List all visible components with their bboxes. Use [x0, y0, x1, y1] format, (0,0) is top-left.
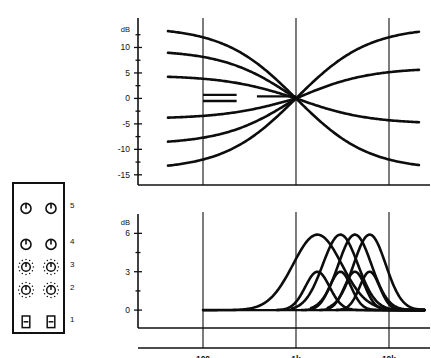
y-tick-label: -5 [122, 119, 130, 129]
rotary-knob[interactable] [17, 235, 35, 253]
panel-row-4 [14, 233, 63, 255]
panel-row-number-3: 3 [70, 261, 84, 269]
y-tick-label: 0 [125, 93, 130, 103]
y-tick-label: 10 [121, 42, 131, 52]
panel-row-3 [14, 256, 63, 278]
x-tick-label: 10k [382, 354, 396, 358]
push-button-switch[interactable] [42, 313, 60, 331]
panel-row-number-4: 4 [70, 238, 84, 246]
rotary-knob-detented[interactable] [17, 258, 35, 276]
y-axis-unit-label: dB [121, 25, 130, 34]
peaking-response-chart: 630dB1001k10k [100, 202, 431, 354]
rotary-knob[interactable] [17, 199, 35, 217]
shelf-curve-high-shelf-cut-mid [296, 98, 419, 122]
equalizer-control-panel [12, 182, 65, 334]
peaking-response-svg: 630dB1001k10k [100, 202, 431, 354]
shelf-curve-high-shelf-cut-max [296, 98, 419, 165]
rotary-knob-detented[interactable] [42, 281, 60, 299]
y-tick-label: 3 [125, 267, 130, 277]
shelf-curve-high-shelf-boost-max [296, 32, 419, 99]
y-tick-label: -10 [118, 144, 131, 154]
panel-row-5 [14, 197, 63, 219]
panel-row-number-5: 5 [70, 202, 84, 210]
rotary-knob-detented[interactable] [42, 258, 60, 276]
panel-row-2 [14, 279, 63, 301]
y-tick-label: -15 [118, 170, 131, 180]
shelf-curve-high-shelf-boost-mid [296, 70, 419, 99]
y-tick-label: 5 [125, 68, 130, 78]
panel-row-number-1: 1 [70, 316, 84, 324]
push-button-switch[interactable] [17, 313, 35, 331]
x-tick-label: 1k [291, 354, 301, 358]
y-axis-unit-label: dB [121, 218, 130, 227]
shelving-response-chart: 1050-5-10-15dB [100, 10, 431, 200]
rotary-knob-detented[interactable] [17, 281, 35, 299]
panel-row-1 [14, 311, 63, 333]
rotary-knob[interactable] [42, 235, 60, 253]
panel-row-number-2: 2 [70, 284, 84, 292]
y-tick-label: 0 [125, 305, 130, 315]
shelving-response-svg: 1050-5-10-15dB [100, 10, 431, 200]
y-tick-label: 6 [125, 228, 130, 238]
diagram-page: 54321 1050-5-10-15dB 630dB1001k10k [0, 0, 431, 358]
x-tick-label: 100 [196, 354, 210, 358]
rotary-knob[interactable] [42, 199, 60, 217]
